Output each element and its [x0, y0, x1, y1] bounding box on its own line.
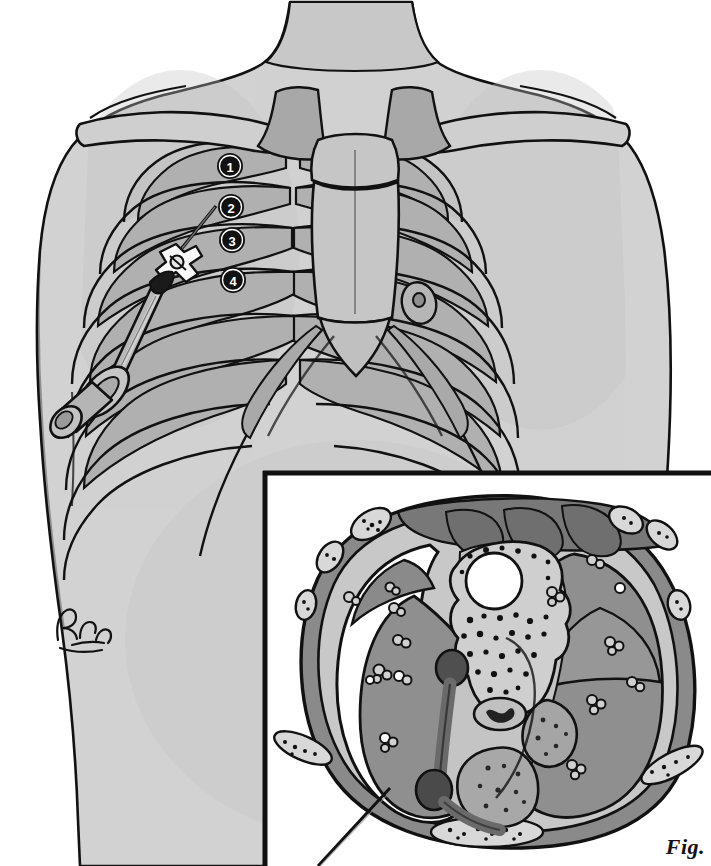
marker-3-label: 3 — [228, 234, 235, 249]
marker-4: 4 — [220, 267, 246, 293]
illustration-canvas: 1 2 3 4 — [0, 0, 711, 866]
spinal-canal — [466, 553, 522, 609]
figure-label: Fig. — [666, 834, 705, 860]
neck — [266, 2, 438, 71]
descending-aorta — [523, 700, 577, 767]
marker-4-label: 4 — [229, 274, 237, 289]
marker-3: 3 — [219, 227, 245, 253]
marker-2: 2 — [218, 194, 244, 220]
marker-1: 1 — [217, 153, 243, 179]
marker-2-label: 2 — [227, 201, 234, 216]
inset-cross-section — [263, 471, 711, 866]
figure-root: 1 2 3 4 — [0, 0, 711, 866]
marker-1-label: 1 — [226, 160, 233, 175]
